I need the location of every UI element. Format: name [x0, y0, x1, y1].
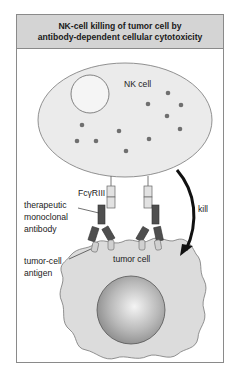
fc-receptor-right	[144, 176, 152, 208]
tumor-nucleus	[97, 276, 165, 344]
receptor-label: FcγRIII	[78, 188, 105, 199]
antibody-left	[88, 205, 115, 242]
nk-cell-label: NK cell	[124, 79, 151, 90]
tumor-cell-label: tumor cell	[113, 254, 150, 265]
antibody-leader-line	[78, 208, 99, 213]
fc-receptor-left	[107, 176, 115, 208]
antigen-label-1: tumor-cell	[24, 256, 62, 267]
nk-nucleus	[71, 75, 109, 113]
antibody-label-3: antibody	[24, 224, 57, 235]
antibody-label-2: monoclonal	[24, 212, 68, 223]
antibody-label-1: therapeutic	[24, 200, 67, 211]
antibody-right	[136, 205, 163, 242]
adcc-diagram	[0, 0, 235, 385]
kill-label: kill	[198, 204, 208, 215]
antigen-label-2: antigen	[24, 268, 52, 279]
